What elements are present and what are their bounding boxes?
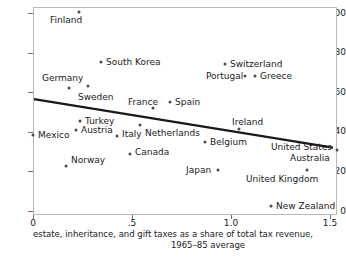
data-point-label: Belgium xyxy=(210,138,247,147)
data-point-label: Greece xyxy=(260,72,292,81)
x-tick-mark xyxy=(33,215,34,219)
data-point-label: Japan xyxy=(186,166,211,175)
data-point-label: South Korea xyxy=(106,58,161,67)
data-point xyxy=(306,169,309,172)
data-point-label: United Kingdom xyxy=(246,175,318,184)
data-point-label: New Zealand xyxy=(276,202,335,211)
caption-line-2: 1965–85 average xyxy=(0,240,346,251)
data-point xyxy=(129,152,132,155)
data-point xyxy=(237,128,240,131)
data-point-label: Sweden xyxy=(78,93,114,102)
scatter-plot-figure: 020406080100 0.51.01.5 FinlandSouth Kore… xyxy=(0,0,346,258)
data-point-label: Switzerland xyxy=(230,60,283,69)
x-tick-mark xyxy=(330,215,331,219)
x-tick-label: 1.5 xyxy=(315,219,345,228)
x-tick-mark xyxy=(231,215,232,219)
data-point-label: Germany xyxy=(42,74,83,83)
data-point xyxy=(68,87,71,90)
data-point-label: Spain xyxy=(175,98,200,107)
x-tick-mark xyxy=(132,215,133,219)
data-point xyxy=(100,60,103,63)
data-point xyxy=(224,63,227,66)
data-point-label: Ireland xyxy=(232,118,263,127)
data-point xyxy=(253,74,256,77)
data-point-label: Italy xyxy=(122,130,142,139)
x-axis-caption: estate, inheritance, and gift taxes as a… xyxy=(0,229,346,251)
x-tick-label: 1.0 xyxy=(216,219,246,228)
x-tick-label: 0 xyxy=(18,219,48,228)
data-point xyxy=(77,11,80,14)
data-point-label: Norway xyxy=(71,156,105,165)
data-point xyxy=(269,205,272,208)
data-point-label: Finland xyxy=(50,16,82,25)
data-point xyxy=(244,74,247,77)
data-point xyxy=(138,124,141,127)
data-point xyxy=(115,134,118,137)
data-point-label: Mexico xyxy=(38,131,69,140)
data-point-label: Portugal xyxy=(206,72,243,81)
trend-line xyxy=(34,8,338,216)
data-point-label: Netherlands xyxy=(145,129,200,138)
x-tick-label: .5 xyxy=(117,219,147,228)
data-point xyxy=(87,85,90,88)
data-point xyxy=(32,133,35,136)
data-point xyxy=(169,100,172,103)
data-point xyxy=(204,141,207,144)
data-point xyxy=(74,129,77,132)
caption-line-1: estate, inheritance, and gift taxes as a… xyxy=(0,229,346,240)
data-point-label: Australia xyxy=(290,154,330,163)
data-point-label: France xyxy=(128,98,158,107)
data-point xyxy=(335,149,338,152)
data-point-label: Austria xyxy=(81,126,113,135)
data-point xyxy=(78,119,81,122)
data-point-label: United States xyxy=(271,143,332,152)
data-point xyxy=(65,165,68,168)
data-point xyxy=(216,169,219,172)
data-point-label: Canada xyxy=(135,148,169,157)
